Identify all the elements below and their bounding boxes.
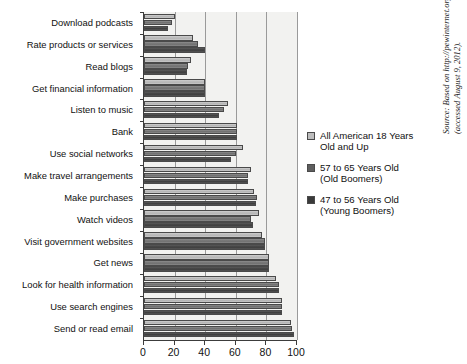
category-label: Bank	[0, 127, 133, 137]
bar	[144, 326, 292, 331]
bar-group	[144, 143, 297, 165]
x-tick	[174, 341, 175, 345]
bar	[144, 35, 193, 40]
bar	[144, 129, 237, 134]
category-label: Make travel arrangements	[0, 171, 133, 181]
category-tick	[140, 253, 144, 254]
bar	[144, 145, 243, 150]
category-label: Rate products or services	[0, 40, 133, 50]
x-tick	[235, 341, 236, 345]
bar	[144, 107, 224, 112]
bar	[144, 254, 269, 259]
bar	[144, 266, 269, 271]
bar	[144, 195, 257, 200]
category-label: Use search engines	[0, 302, 133, 312]
category-tick	[140, 296, 144, 297]
category-label: Use social networks	[0, 149, 133, 159]
x-tick-label: 0	[130, 346, 156, 358]
legend-label-line1: 47 to 56 Years Old	[320, 194, 399, 205]
bar	[144, 332, 294, 337]
bar-group	[144, 296, 297, 318]
category-label: Watch videos	[0, 215, 133, 225]
bar	[144, 216, 251, 221]
bar	[144, 276, 276, 281]
bar-group	[144, 34, 297, 56]
bar	[144, 222, 253, 227]
legend-label-line1: 57 to 65 Years Old	[320, 162, 399, 173]
category-label: Visit government websites	[0, 237, 133, 247]
category-tick	[140, 165, 144, 166]
bar	[144, 101, 228, 106]
x-tick	[296, 341, 297, 345]
category-tick	[140, 318, 144, 319]
category-label: Send or read email	[0, 324, 133, 334]
bar	[144, 47, 205, 52]
legend-label-line2: (Young Boomers)	[320, 205, 394, 216]
bar	[144, 157, 231, 162]
bar	[144, 282, 279, 287]
bar	[144, 63, 188, 68]
gridline-100	[297, 12, 298, 340]
category-tick	[140, 34, 144, 35]
legend-item-young-boomers: 47 to 56 Years Old (Young Boomers)	[307, 194, 432, 217]
bar-group	[144, 121, 297, 143]
bar-group	[144, 99, 297, 121]
legend-label-line2: (Old Boomers)	[320, 173, 382, 184]
bar	[144, 85, 205, 90]
bar-group	[144, 165, 297, 187]
bar	[144, 135, 237, 140]
bar	[144, 260, 269, 265]
bar-group	[144, 274, 297, 296]
category-tick	[140, 78, 144, 79]
x-tick-label: 100	[283, 346, 309, 358]
legend-swatch-icon-young-boomers	[307, 196, 315, 204]
bar-group	[144, 253, 297, 275]
bar	[144, 232, 262, 237]
bar	[144, 79, 205, 84]
legend-swatch-icon-all-american	[307, 132, 315, 140]
bar	[144, 113, 219, 118]
category-tick	[140, 56, 144, 57]
category-label: Look for health information	[0, 280, 133, 290]
bar-group	[144, 56, 297, 78]
bar	[144, 69, 187, 74]
bar	[144, 14, 175, 19]
bar	[144, 201, 256, 206]
bar	[144, 179, 248, 184]
category-label: Listen to music	[0, 105, 133, 115]
bar	[144, 123, 237, 128]
source-note-line2: (accessed August 9, 2012).	[452, 0, 463, 134]
bar	[144, 320, 291, 325]
category-tick	[140, 187, 144, 188]
category-tick	[140, 12, 144, 13]
legend-label-all-american: All American 18 Years Old and Up	[320, 130, 413, 153]
source-note-line1: Source: Based on http://pewinternet.org/…	[441, 0, 451, 134]
bar-chart-figure: Download podcastsRate products or servic…	[0, 0, 467, 364]
bar	[144, 298, 282, 303]
legend-label-line2: Old and Up	[320, 141, 369, 152]
bar	[144, 238, 265, 243]
bar	[144, 57, 191, 62]
category-tick	[140, 231, 144, 232]
category-tick	[140, 209, 144, 210]
category-label: Read blogs	[0, 62, 133, 72]
x-tick-label: 60	[222, 346, 248, 358]
bar-group	[144, 318, 297, 340]
bar	[144, 210, 259, 215]
legend-item-all-american: All American 18 Years Old and Up	[307, 130, 432, 153]
x-tick-label: 20	[161, 346, 187, 358]
bar-group	[144, 12, 297, 34]
category-axis-labels: Download podcastsRate products or servic…	[0, 12, 138, 340]
bar	[144, 41, 198, 46]
category-label: Download podcasts	[0, 18, 133, 28]
x-tick	[204, 341, 205, 345]
x-axis: 020406080100	[143, 340, 297, 363]
bar-group	[144, 187, 297, 209]
legend-label-young-boomers: 47 to 56 Years Old (Young Boomers)	[320, 194, 399, 217]
legend-label-line1: All American 18 Years	[320, 130, 413, 141]
x-tick-label: 80	[252, 346, 278, 358]
legend-swatch-icon-old-boomers	[307, 164, 315, 172]
category-tick	[140, 121, 144, 122]
x-tick-label: 40	[191, 346, 217, 358]
bar	[144, 167, 251, 172]
